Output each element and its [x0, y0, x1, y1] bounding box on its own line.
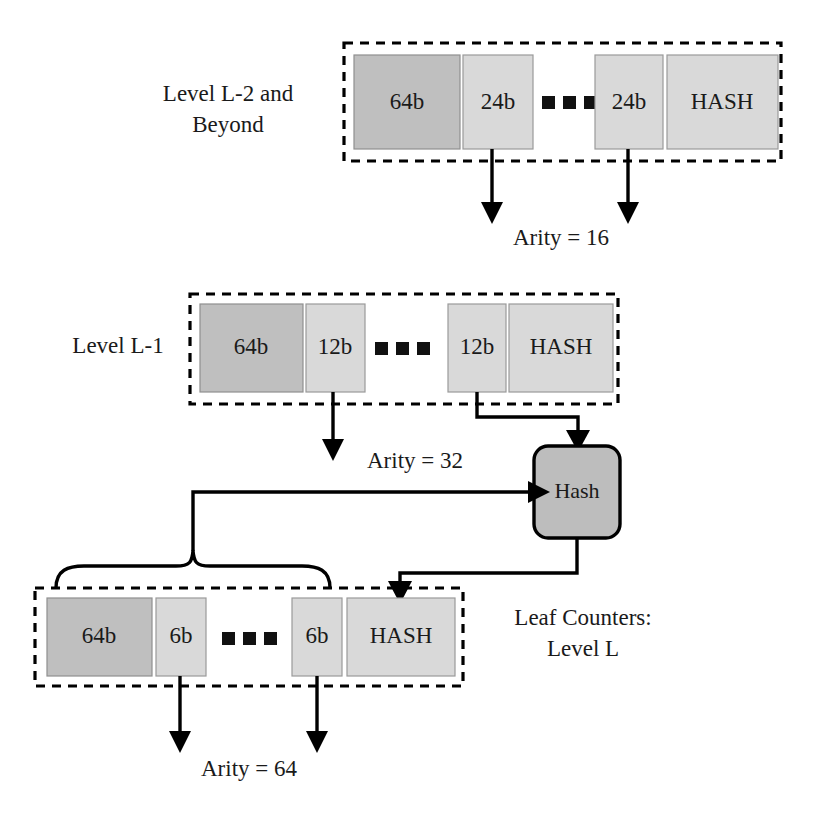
level-l-minus-1-arity-label: Arity = 32 — [367, 448, 463, 473]
level-upper-arity-arrow-right — [617, 149, 639, 224]
level-leaf-group: 64b 6b 6b HASH Leaf Counters: Level L — [35, 588, 652, 781]
diagram-canvas: 64b 24b 24b HASH Level L-2 and Beyond — [0, 0, 816, 830]
level-l-minus-1-cell-delta-last-label: 12b — [460, 334, 495, 359]
level-l-minus-1-side-label: Level L-1 — [72, 333, 163, 358]
level-l-minus-1-cell-counter-label: 64b — [234, 334, 269, 359]
level-l-minus-1-cell-hash-label: HASH — [530, 334, 593, 359]
level-l-minus-1-to-hash-connector — [477, 392, 590, 452]
hash-node-to-leaf-hash-connector — [388, 538, 577, 604]
level-upper-group: 64b 24b 24b HASH Level L-2 and Beyond — [163, 43, 781, 250]
level-upper-cell-delta-first-label: 24b — [481, 89, 516, 114]
counter-tree-diagram: 64b 24b 24b HASH Level L-2 and Beyond — [0, 0, 816, 830]
level-upper-ellipsis-icon — [542, 96, 597, 109]
level-upper-cell-hash-label: HASH — [691, 89, 754, 114]
level-l-minus-1-arity-arrow — [322, 392, 344, 461]
level-leaf-arity-label: Arity = 64 — [201, 756, 298, 781]
level-l-minus-1-ellipsis-icon — [375, 342, 430, 355]
level-upper-arity-label: Arity = 16 — [513, 225, 609, 250]
level-leaf-side-label-line1: Leaf Counters: — [514, 605, 651, 630]
level-leaf-cell-delta-first-label: 6b — [170, 623, 193, 648]
level-leaf-side-label-line2: Level L — [547, 636, 619, 661]
level-l-minus-1-cell-delta-first-label: 12b — [318, 334, 353, 359]
level-leaf-cell-counter-label: 64b — [82, 623, 117, 648]
level-leaf-ellipsis-icon — [222, 632, 277, 645]
hash-node-label: Hash — [554, 478, 599, 503]
level-leaf-cell-hash-label: HASH — [370, 623, 433, 648]
level-upper-cell-counter-label: 64b — [390, 89, 425, 114]
level-leaf-cell-delta-last-label: 6b — [306, 623, 329, 648]
level-upper-side-label-line1: Level L-2 and — [163, 81, 294, 106]
level-upper-cell-delta-last-label: 24b — [612, 89, 647, 114]
level-l-minus-1-group: 64b 12b 12b HASH Level L-1 Arity = 32 — [72, 294, 618, 473]
level-upper-side-label-line2: Beyond — [192, 112, 264, 137]
